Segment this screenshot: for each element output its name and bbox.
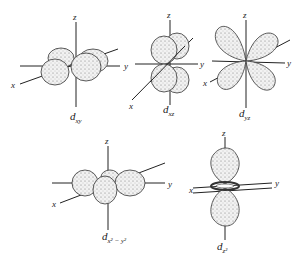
axis-label-y: y: [199, 59, 204, 69]
orbital-dxz: z y x dxz: [128, 10, 204, 118]
axis-label-z: z: [166, 10, 171, 20]
axis-label-y: y: [274, 178, 279, 188]
axis-label-z: z: [72, 12, 77, 22]
axis-label-z: z: [221, 128, 226, 138]
axis-label-x: x: [128, 101, 133, 111]
orbital-dz2: z y x dz²: [188, 128, 279, 255]
orbital-label-dyz: dyz: [239, 107, 251, 122]
axis-label-z: z: [242, 10, 247, 20]
orbital-dxy: z y x dxy: [10, 12, 128, 125]
axis-label-x: x: [202, 78, 207, 88]
orbital-dyz: z y x dyz: [202, 10, 291, 122]
axis-label-y: y: [286, 58, 291, 68]
orbital-label-dx2-y2: dx² − y²: [102, 230, 127, 245]
orbital-label-dz2: dz²: [217, 240, 228, 255]
axis-label-x: x: [188, 185, 193, 195]
axis-label-x: x: [10, 80, 15, 90]
axis-label-y: y: [167, 179, 172, 189]
axis-label-y: y: [123, 61, 128, 71]
d-orbitals-diagram: z y x dxy z y x dxz z y x dyz: [0, 0, 301, 263]
orbital-label-dxy: dxy: [70, 110, 83, 125]
orbital-label-dxz: dxz: [163, 103, 175, 118]
axis-label-x: x: [51, 199, 56, 209]
orbital-dx2-y2: z y x dx² − y²: [51, 136, 172, 245]
axis-label-z: z: [104, 136, 109, 146]
